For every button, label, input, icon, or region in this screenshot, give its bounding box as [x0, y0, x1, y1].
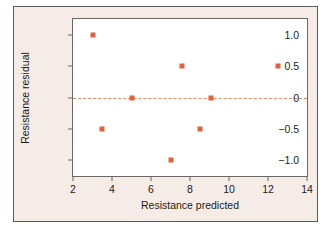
x-tick-label: 2: [70, 183, 76, 195]
data-point-marker: [275, 64, 280, 69]
y-tick: [68, 66, 73, 67]
x-tick: [268, 176, 269, 181]
x-axis-label: Resistance predicted: [72, 199, 308, 211]
y-tick-label: −1.0: [278, 154, 299, 166]
data-point-marker: [197, 126, 202, 131]
y-tick-label: −0.5: [278, 123, 299, 135]
x-tick: [190, 176, 191, 181]
y-tick: [68, 128, 73, 129]
data-point-marker: [100, 126, 105, 131]
x-tick-label: 6: [148, 183, 154, 195]
y-tick-label: 0.5: [284, 60, 299, 72]
plot-area: 1.00.50−0.5−1.0 2468101214: [72, 18, 308, 177]
x-tick-label: 14: [301, 183, 313, 195]
y-tick: [68, 97, 73, 98]
x-tick-label: 8: [187, 183, 193, 195]
figure-panel: Resistance residual 1.00.50−0.5−1.0 2468…: [13, 6, 318, 222]
x-tick-label: 10: [223, 183, 235, 195]
data-point-marker: [209, 95, 214, 100]
data-point-marker: [168, 158, 173, 163]
y-tick: [68, 160, 73, 161]
data-point-marker: [180, 64, 185, 69]
plot-inner: 1.00.50−0.5−1.0 2468101214: [73, 19, 307, 176]
data-point-marker: [129, 95, 134, 100]
y-axis-label: Resistance residual: [18, 18, 32, 177]
y-tick: [68, 34, 73, 35]
y-tick-label: 0: [293, 92, 299, 104]
data-point-marker: [90, 32, 95, 37]
x-tick: [112, 176, 113, 181]
zero-residual-line: [73, 98, 307, 99]
x-tick: [229, 176, 230, 181]
y-axis-label-text: Resistance residual: [19, 52, 31, 144]
y-tick-label: 1.0: [284, 29, 299, 41]
x-tick: [307, 176, 308, 181]
x-tick: [151, 176, 152, 181]
x-tick: [73, 176, 74, 181]
x-tick-label: 4: [109, 183, 115, 195]
x-tick-label: 12: [262, 183, 274, 195]
